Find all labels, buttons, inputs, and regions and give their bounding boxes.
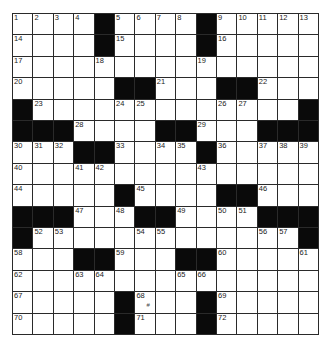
grid-cell[interactable]: 37 [258, 142, 277, 162]
grid-cell[interactable] [95, 100, 114, 120]
grid-cell[interactable] [176, 57, 195, 77]
grid-cell[interactable] [54, 78, 73, 98]
grid-cell[interactable]: 46 [258, 185, 277, 205]
grid-cell[interactable] [237, 314, 256, 334]
grid-cell[interactable]: 43 [197, 164, 216, 184]
grid-cell[interactable] [33, 292, 52, 312]
grid-cell[interactable]: 17 [13, 57, 32, 77]
grid-cell[interactable]: 9 [217, 14, 236, 34]
grid-cell[interactable] [197, 185, 216, 205]
grid-cell[interactable] [278, 57, 297, 77]
grid-cell[interactable]: 27 [237, 100, 256, 120]
grid-cell[interactable] [237, 292, 256, 312]
grid-cell[interactable]: 69 [217, 292, 236, 312]
grid-cell[interactable]: 3 [54, 14, 73, 34]
grid-cell[interactable] [299, 185, 318, 205]
grid-cell[interactable] [115, 271, 134, 291]
grid-cell[interactable] [135, 35, 154, 55]
grid-cell[interactable] [217, 57, 236, 77]
grid-cell[interactable] [278, 314, 297, 334]
grid-cell[interactable]: 64 [95, 271, 114, 291]
grid-cell[interactable]: 60 [217, 249, 236, 269]
grid-cell[interactable] [54, 249, 73, 269]
grid-cell[interactable]: 41 [74, 164, 93, 184]
grid-cell[interactable] [197, 228, 216, 248]
grid-cell[interactable]: 66 [197, 271, 216, 291]
grid-cell[interactable] [74, 292, 93, 312]
grid-cell[interactable] [237, 142, 256, 162]
grid-cell[interactable]: 6 [135, 14, 154, 34]
grid-cell[interactable]: 61 [299, 249, 318, 269]
grid-cell[interactable] [176, 100, 195, 120]
grid-cell[interactable] [33, 271, 52, 291]
grid-cell[interactable] [74, 314, 93, 334]
grid-cell[interactable] [135, 249, 154, 269]
grid-cell[interactable] [156, 35, 175, 55]
grid-cell[interactable] [156, 292, 175, 312]
grid-cell[interactable] [217, 271, 236, 291]
grid-cell[interactable] [278, 249, 297, 269]
grid-cell[interactable]: 8 [176, 14, 195, 34]
grid-cell[interactable]: 55 [156, 228, 175, 248]
grid-cell[interactable]: 71 [135, 314, 154, 334]
grid-cell[interactable]: 23 [33, 100, 52, 120]
grid-cell[interactable] [95, 185, 114, 205]
grid-cell[interactable] [156, 249, 175, 269]
grid-cell[interactable] [258, 292, 277, 312]
grid-cell[interactable] [156, 164, 175, 184]
grid-cell[interactable]: 18 [95, 57, 114, 77]
grid-cell[interactable]: 12 [278, 14, 297, 34]
grid-cell[interactable] [299, 314, 318, 334]
grid-cell[interactable] [74, 228, 93, 248]
grid-cell[interactable]: 54 [135, 228, 154, 248]
grid-cell[interactable] [217, 228, 236, 248]
grid-cell[interactable] [278, 164, 297, 184]
grid-cell[interactable] [115, 228, 134, 248]
grid-cell[interactable]: 4 [74, 14, 93, 34]
grid-cell[interactable]: 62 [13, 271, 32, 291]
grid-cell[interactable]: 47 [74, 207, 93, 227]
grid-cell[interactable] [258, 57, 277, 77]
grid-cell[interactable] [258, 35, 277, 55]
grid-cell[interactable]: 30 [13, 142, 32, 162]
grid-cell[interactable]: 67 [13, 292, 32, 312]
grid-cell[interactable]: 57 [278, 228, 297, 248]
grid-cell[interactable] [299, 35, 318, 55]
grid-cell[interactable] [95, 78, 114, 98]
grid-cell[interactable] [54, 292, 73, 312]
grid-cell[interactable] [156, 185, 175, 205]
grid-cell[interactable] [33, 249, 52, 269]
grid-cell[interactable]: 59 [115, 249, 134, 269]
grid-cell[interactable] [95, 228, 114, 248]
grid-cell[interactable]: 51 [237, 207, 256, 227]
grid-cell[interactable] [237, 35, 256, 55]
grid-cell[interactable]: 24 [115, 100, 134, 120]
grid-cell[interactable] [54, 35, 73, 55]
grid-cell[interactable]: 2 [33, 14, 52, 34]
grid-cell[interactable] [258, 100, 277, 120]
grid-cell[interactable] [115, 164, 134, 184]
grid-cell[interactable] [135, 164, 154, 184]
grid-cell[interactable]: 29 [197, 121, 216, 141]
grid-cell[interactable]: 16 [217, 35, 236, 55]
grid-cell[interactable] [237, 249, 256, 269]
grid-cell[interactable] [258, 314, 277, 334]
grid-cell[interactable] [299, 78, 318, 98]
grid-cell[interactable] [299, 164, 318, 184]
grid-cell[interactable] [115, 121, 134, 141]
grid-cell[interactable]: 28 [74, 121, 93, 141]
grid-cell[interactable]: 39 [299, 142, 318, 162]
grid-cell[interactable] [176, 314, 195, 334]
grid-cell[interactable]: 10 [237, 14, 256, 34]
grid-cell[interactable] [54, 164, 73, 184]
grid-cell[interactable] [197, 78, 216, 98]
grid-cell[interactable] [217, 164, 236, 184]
grid-cell[interactable] [156, 100, 175, 120]
grid-cell[interactable]: 14 [13, 35, 32, 55]
grid-cell[interactable]: 33 [115, 142, 134, 162]
grid-cell[interactable] [156, 314, 175, 334]
grid-cell[interactable]: 68# [135, 292, 154, 312]
grid-cell[interactable] [237, 164, 256, 184]
grid-cell[interactable] [95, 292, 114, 312]
grid-cell[interactable] [54, 57, 73, 77]
